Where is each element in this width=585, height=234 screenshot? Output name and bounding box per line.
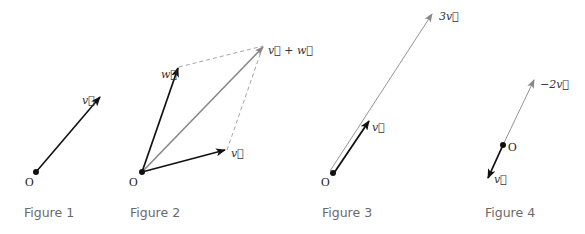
origin-label: O: [508, 140, 517, 154]
vector-3v-arrow: [330, 14, 432, 171]
origin-label: O: [321, 175, 330, 189]
vector-neg2v-arrow: [503, 80, 534, 145]
figure-4-caption: Figure 4: [485, 205, 535, 220]
vector-v-label: v⃗: [82, 94, 95, 107]
figure-2: w⃗ v⃗ v⃗ + w⃗ O: [129, 44, 313, 189]
figure-2-caption: Figure 2: [130, 205, 180, 220]
origin-point: [500, 142, 506, 148]
vector-v-arrow: [334, 121, 369, 173]
parallelogram-dashed-top: [179, 46, 263, 67]
parallelogram-dashed-right: [227, 46, 263, 150]
vector-v-arrow: [36, 97, 100, 172]
vector-sum-label: v⃗ + w⃗: [268, 44, 313, 57]
vector-v-label: v⃗: [372, 121, 385, 134]
vector-diagrams: v⃗ O w⃗ v⃗ v⃗ + w⃗ O v⃗ 3v⃗ O −2v⃗ v⃗ O: [0, 0, 585, 234]
figure-3: v⃗ 3v⃗ O: [321, 10, 459, 189]
figure-4: −2v⃗ v⃗ O: [488, 78, 569, 186]
vector-sum-arrow: [142, 47, 263, 172]
figure-3-caption: Figure 3: [322, 205, 372, 220]
figure-1-caption: Figure 1: [24, 205, 74, 220]
origin-label: O: [25, 175, 34, 189]
figure-1: v⃗ O: [25, 94, 100, 189]
origin-label: O: [129, 175, 138, 189]
origin-point: [330, 170, 336, 176]
origin-point: [139, 169, 145, 175]
vector-3v-label: 3v⃗: [439, 10, 459, 23]
vector-w-label: w⃗: [161, 68, 177, 81]
vector-v-label: v⃗: [494, 173, 507, 186]
vector-v-label: v⃗: [231, 147, 244, 160]
origin-point: [33, 169, 39, 175]
vector-v-arrow: [142, 150, 225, 172]
vector-neg2v-label: −2v⃗: [540, 78, 569, 91]
vector-w-arrow: [142, 68, 178, 172]
